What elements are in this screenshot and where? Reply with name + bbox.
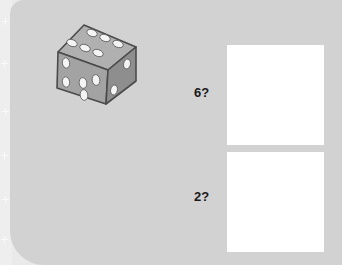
dice-question-scene: 6? 2? — [0, 0, 342, 265]
question-label-2: 2? — [194, 189, 209, 204]
sparkle-icon — [1, 152, 8, 159]
answer-box-6[interactable] — [227, 45, 324, 145]
sparkle-icon — [2, 18, 9, 25]
sparkle-icon — [1, 60, 8, 67]
sparkle-icon — [2, 196, 9, 203]
answer-box-2[interactable] — [227, 152, 324, 252]
sparkle-icon — [1, 236, 8, 243]
question-label-6: 6? — [194, 85, 209, 100]
sparkle-icon — [2, 108, 9, 115]
die-icon — [52, 22, 144, 112]
